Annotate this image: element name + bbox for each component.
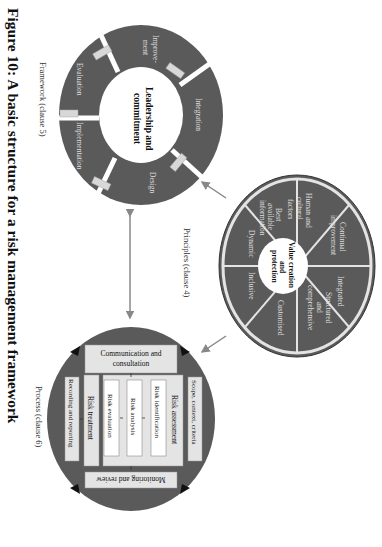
process-risk-assessment: Risk assessment bbox=[170, 395, 179, 445]
principle-human-3: factors bbox=[286, 199, 295, 219]
principles-to-framework-arrow bbox=[202, 182, 226, 198]
segment-evaluation: Evaluation bbox=[75, 63, 84, 96]
process-label: Process (clause 6) bbox=[34, 386, 44, 448]
principles-circle: Value creation and protection Continual … bbox=[219, 175, 375, 357]
principle-structured-3: comprehensive bbox=[306, 285, 315, 331]
principle-structured-2: and bbox=[315, 302, 324, 313]
segment-design: Design bbox=[148, 172, 157, 193]
framework-center-line1: Leadership and bbox=[144, 87, 154, 151]
process-risk-analysis: Risk analysis bbox=[129, 398, 137, 435]
process-circle: Communication and consultation Monitorin… bbox=[47, 327, 215, 511]
process-scope: Scope, context, criteria bbox=[190, 380, 198, 445]
principle-customised: Customised bbox=[276, 300, 285, 336]
principles-to-process-arrow bbox=[202, 336, 226, 352]
segment-improvement-2: ment bbox=[141, 40, 150, 56]
principles-center-line1: Value creation bbox=[287, 242, 296, 289]
principle-structured-1: Structured bbox=[324, 292, 333, 323]
framework-center-line2: commitment bbox=[132, 93, 142, 145]
segment-implementation: Implementation bbox=[75, 122, 84, 170]
process-communication-1: Communication and bbox=[100, 349, 161, 358]
process-risk-evaluation: Risk evaluation bbox=[106, 394, 114, 438]
risk-framework-diagram: Figure 10: A basic structure for a risk … bbox=[0, 0, 382, 547]
principle-human-2: cultural bbox=[295, 197, 304, 220]
principles-center-line3: protection bbox=[270, 250, 279, 284]
process-recording: Recording and reporting bbox=[67, 379, 75, 448]
principle-continual-2: improvement bbox=[329, 215, 338, 256]
process-risk-identification: Risk identification bbox=[153, 386, 161, 438]
principles-label: Principles (clause 4) bbox=[182, 228, 192, 298]
principle-human-1: Human and bbox=[304, 193, 313, 228]
principle-dynamic: Dynamic bbox=[247, 230, 256, 258]
segment-improvement-1: Improve- bbox=[151, 35, 160, 63]
process-monitoring: Monitoring and review bbox=[96, 475, 166, 484]
figure-caption: Figure 10: A basic structure for a risk … bbox=[5, 8, 22, 424]
principle-best-3: information bbox=[258, 200, 267, 236]
framework-circle: Leadership and commitment Integration De… bbox=[58, 25, 223, 205]
principle-inclusive: Inclusive bbox=[247, 272, 256, 300]
process-risk-treatment: Risk treatment bbox=[86, 396, 95, 441]
segment-integration: Integration bbox=[194, 98, 203, 131]
framework-label: Framework (clause 5) bbox=[38, 62, 48, 137]
process-communication-2: consultation bbox=[113, 359, 150, 368]
principle-integrated: Integrated bbox=[336, 276, 345, 307]
principle-continual-1: Continual bbox=[338, 222, 347, 252]
